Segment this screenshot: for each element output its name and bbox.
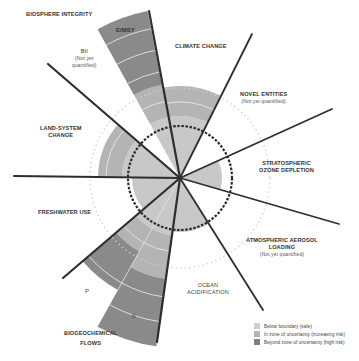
label-novel-entities: NOVEL ENTITIES (Not yet quantified) xyxy=(240,91,287,105)
label-biosphere-integrity: BIOSPHERE INTEGRITY xyxy=(26,11,92,18)
novel-note: (Not yet quantified) xyxy=(240,98,287,105)
biogeo-line1: BIOGEOCHEMICAL xyxy=(64,327,117,340)
legend-item-high-risk: Beyond zone of uncertainty (high risk) xyxy=(254,338,345,346)
aerosol-line1: ATMOSPHERIC AEROSOL xyxy=(246,237,318,244)
legend-item-uncertainty: In zone of uncertainty (increasing risk) xyxy=(254,330,345,338)
legend-label-uncertainty: In zone of uncertainty (increasing risk) xyxy=(264,332,345,337)
ocean-line2: ACIDIFICATION xyxy=(187,289,229,296)
bii-note-2: quantified) xyxy=(72,62,96,69)
legend-label-safe: Below boundary (safe) xyxy=(264,324,312,329)
ozone-line2: OZONE DEPLETION xyxy=(259,167,314,174)
legend-label-high-risk: Beyond zone of uncertainty (high risk) xyxy=(264,340,345,345)
label-land-system: LAND-SYSTEM CHANGE xyxy=(40,125,82,139)
label-p: P xyxy=(85,288,89,294)
label-ocean: OCEAN ACIDIFICATION xyxy=(187,282,229,296)
land-line2: CHANGE xyxy=(40,132,82,139)
bii-text: BII xyxy=(81,48,88,54)
legend-swatch-high-risk xyxy=(254,339,260,345)
aerosol-note: (Not yet quantified) xyxy=(246,251,318,258)
bii-note-1: (Not yet xyxy=(72,55,96,62)
legend-item-safe: Below boundary (safe) xyxy=(254,322,345,330)
biogeo-line2: FLOWS xyxy=(64,340,117,347)
label-biogeochemical: BIOGEOCHEMICAL FLOWS xyxy=(64,327,117,347)
planetary-boundaries-diagram xyxy=(0,0,359,361)
ocean-line1: OCEAN xyxy=(187,282,229,289)
aerosol-line2: LOADING xyxy=(246,244,318,251)
novel-title: NOVEL ENTITIES xyxy=(240,91,287,97)
label-ozone: STRATOSPHERIC OZONE DEPLETION xyxy=(259,160,314,174)
label-freshwater: FRESHWATER USE xyxy=(38,209,91,216)
label-n: N xyxy=(132,313,136,319)
label-emsy: E/MSY xyxy=(116,27,135,33)
legend-swatch-uncertainty xyxy=(254,331,260,337)
label-climate-change: CLIMATE CHANGE xyxy=(175,43,227,50)
label-bii: BII (Not yet quantified) xyxy=(72,48,96,69)
ozone-line1: STRATOSPHERIC xyxy=(259,160,314,167)
legend: Below boundary (safe) In zone of uncerta… xyxy=(254,322,345,346)
label-aerosol: ATMOSPHERIC AEROSOL LOADING (Not yet qua… xyxy=(246,237,318,258)
legend-swatch-safe xyxy=(254,323,260,329)
land-line1: LAND-SYSTEM xyxy=(40,125,82,132)
